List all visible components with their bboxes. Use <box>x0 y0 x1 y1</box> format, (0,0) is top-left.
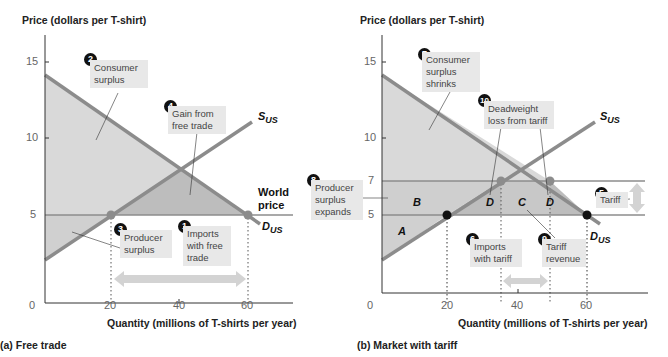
panel-title-a: (a) Free trade <box>0 339 67 351</box>
y-tick-5-a: 5 <box>30 208 36 220</box>
demand-label-a: DUS <box>262 220 282 235</box>
x-tick-20-a: 20 <box>104 299 116 311</box>
x-tick-60-a: 60 <box>241 299 253 311</box>
supply-label-b: SUS <box>600 110 620 125</box>
tariff-diagram: Price (dollars per T-shirt) 15 10 5 0 20… <box>0 0 668 357</box>
demand-label-b: DUS <box>590 230 610 245</box>
imports-arrow-a <box>114 271 246 287</box>
y-tick-7-b: 7 <box>368 174 374 186</box>
area-a-letter: A <box>398 225 406 237</box>
label-imports-with-tariff: Imports with tariff <box>470 239 522 267</box>
area-c-letter: C <box>518 196 526 208</box>
x-tick-40-b: 40 <box>511 299 523 311</box>
diagram-graphics <box>0 0 668 357</box>
area-d-left-letter: D <box>486 196 494 208</box>
x-tick-0-a: 0 <box>29 299 35 311</box>
y-axis-title-b: Price (dollars per T-shirt) <box>360 14 484 26</box>
area-b-letter: B <box>413 196 421 208</box>
tariff-arrow <box>629 183 645 213</box>
y-tick-10-a: 10 <box>26 131 38 143</box>
label-tariff: Tariff <box>596 192 628 208</box>
x-axis-title-a: Quantity (millions of T-shirts per year) <box>107 317 297 329</box>
label-tariff-revenue: Tariff revenue <box>542 239 586 267</box>
label-imports-free-trade: Imports with free trade <box>183 226 231 266</box>
y-tick-15-b: 15 <box>364 55 376 67</box>
label-consumer-surplus-a: Consumer surplus <box>90 60 148 88</box>
y-axis-title-a: Price (dollars per T-shirt) <box>22 14 146 26</box>
label-consumer-surplus-shrinks: Consumer surplus shrinks <box>422 52 480 92</box>
x-tick-20-b: 20 <box>441 299 453 311</box>
y-tick-15-a: 15 <box>26 55 38 67</box>
x-axis-title-b: Quantity (millions of T-shirts per year) <box>458 317 648 329</box>
y-tick-10-b: 10 <box>364 131 376 143</box>
y-tick-5-b: 5 <box>368 208 374 220</box>
label-producer-surplus-expands: Producer surplus expands <box>311 180 363 220</box>
panel-title-b: (b) Market with tariff <box>357 339 457 351</box>
label-gain-from-free-trade: Gain from free trade <box>168 106 226 134</box>
world-price-label: World price <box>258 186 298 212</box>
label-producer-surplus-a: Producer surplus <box>120 230 172 258</box>
area-d-right-letter: D <box>546 196 554 208</box>
x-tick-40-a: 40 <box>173 299 185 311</box>
label-deadweight-loss: Deadweight loss from tariff <box>484 101 554 129</box>
x-tick-0-b: 0 <box>367 299 373 311</box>
x-tick-60-b: 60 <box>580 299 592 311</box>
supply-label-a: SUS <box>258 110 278 125</box>
imports-arrow-b <box>503 274 548 288</box>
